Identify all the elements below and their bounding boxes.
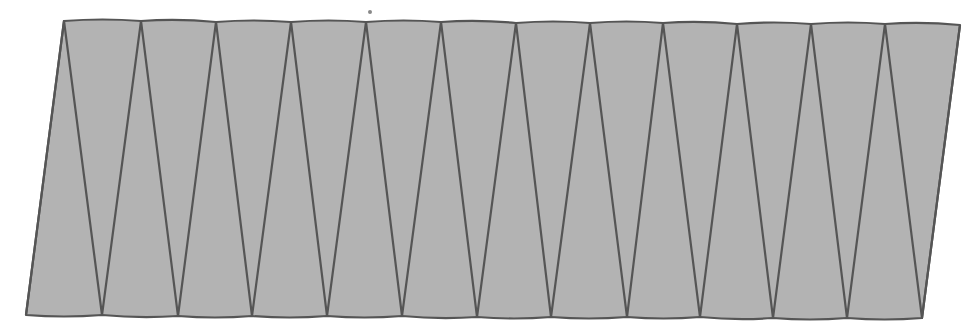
strip-fill-region (26, 20, 960, 320)
speck-mark (368, 10, 372, 14)
strip-fill (26, 20, 960, 320)
triangle-strip-diagram (0, 0, 971, 334)
stray-marks (368, 10, 372, 14)
